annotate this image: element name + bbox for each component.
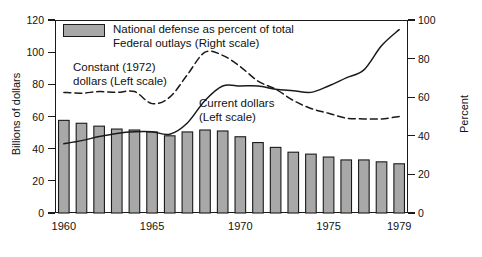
bar-1971: [253, 143, 264, 213]
bar-1970: [235, 137, 246, 213]
bar-1972: [270, 147, 281, 213]
bar-1973: [288, 152, 299, 213]
bar-1964: [129, 130, 140, 213]
chart-plot-area: Billions of dollars Percent 020406080100…: [0, 0, 482, 257]
bar-1961: [76, 123, 87, 213]
bar-1978: [376, 162, 387, 213]
bar-1975: [323, 157, 334, 213]
bar-1967: [182, 132, 193, 213]
current-dollars-annotation-line2: (Left scale): [199, 110, 274, 124]
bar-1969: [217, 131, 228, 213]
bar-1979: [394, 164, 405, 213]
chart-figure: Billions of dollars Percent 020406080100…: [0, 0, 482, 257]
current-dollars-annotation: Current dollars (Left scale): [199, 96, 274, 124]
constant-dollars-annotation-line2: dollars (Left scale): [73, 74, 167, 88]
bar-1974: [306, 154, 317, 213]
bar-1977: [359, 160, 370, 213]
chart-legend: National defense as percent of total Fed…: [63, 22, 294, 50]
bar-1968: [200, 130, 211, 213]
bar-1965: [147, 132, 158, 213]
constant-dollars-annotation-line1: Constant (1972): [73, 60, 167, 74]
legend-label-bar-line1: National defense as percent of total: [113, 22, 294, 36]
legend-swatch-bar: [63, 24, 105, 37]
legend-label-bar: National defense as percent of total Fed…: [113, 22, 294, 50]
constant-dollars-annotation: Constant (1972) dollars (Left scale): [73, 60, 167, 88]
current-dollars-annotation-line1: Current dollars: [199, 96, 274, 110]
bar-1966: [164, 136, 175, 213]
bar-1963: [111, 129, 122, 213]
bar-1976: [341, 160, 352, 213]
bar-1960: [59, 120, 70, 213]
legend-label-bar-line2: Federal outlays (Right scale): [113, 36, 294, 50]
bar-1962: [94, 126, 105, 213]
